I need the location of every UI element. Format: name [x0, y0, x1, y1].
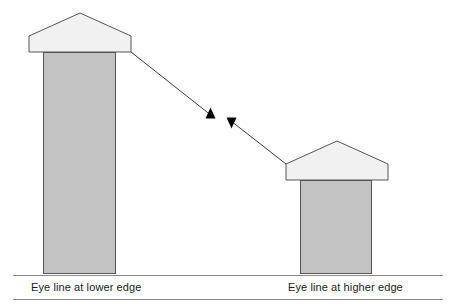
tall-tower-column	[44, 53, 116, 274]
label-eye-line-lower-edge: Eye line at lower edge	[31, 281, 141, 293]
diagram-canvas	[0, 0, 460, 308]
upward-sight-line-arrowhead	[227, 118, 237, 129]
tall-tower-roof	[29, 13, 131, 52]
short-tower-column	[301, 181, 372, 274]
short-tower-roof	[286, 141, 388, 180]
upward-sight-line	[231, 121, 286, 164]
label-eye-line-higher-edge: Eye line at higher edge	[288, 281, 403, 293]
eye-line-diagram: Eye line at lower edge Eye line at highe…	[0, 0, 460, 308]
downward-sight-line-arrowhead	[206, 108, 216, 119]
downward-sight-line	[131, 52, 212, 116]
